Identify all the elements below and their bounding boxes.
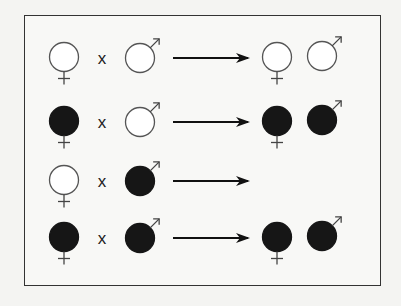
row-1-male-parent-icon [126,39,160,73]
row-2-offspring-female-icon [263,107,292,149]
row-4-cross-symbol: x [98,229,107,249]
row-2-male-parent-icon [126,103,160,137]
row-4-female-parent-icon [50,223,79,265]
row-1-cross-symbol: x [98,49,107,69]
row-3-cross-symbol: x [98,172,107,192]
row-3-female-parent-icon [50,166,79,208]
row-1-offspring-male-icon [308,37,342,71]
row-1-offspring-female-icon [263,43,292,85]
row-1-female-parent-icon [50,43,79,85]
row-4-offspring-male-icon [308,217,342,251]
cross-diagram [0,0,401,306]
row-2-cross-symbol: x [98,113,107,133]
row-4-male-parent-icon [126,219,160,253]
row-3-male-parent-icon [126,162,160,196]
row-2-female-parent-icon [50,107,79,149]
row-2-offspring-male-icon [308,101,342,135]
row-4-offspring-female-icon [263,223,292,265]
